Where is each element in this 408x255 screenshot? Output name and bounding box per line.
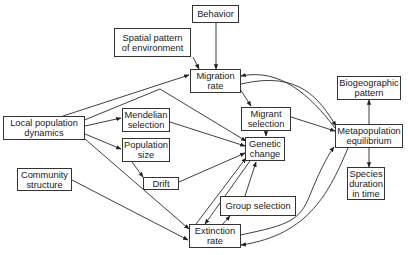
node-label: equilibrium [347,136,392,146]
node-extinction-rate: Extinction rate [189,224,241,248]
node-label: size [138,150,155,160]
node-label: selection [248,119,285,129]
node-label: Species [349,169,382,179]
node-label: of environment [122,43,184,53]
node-label: Migrant [250,109,281,119]
node-label: Local population [10,118,78,128]
edge-migration-migrantsel [240,89,251,106]
node-label: Migration [196,71,234,81]
node-label: Behavior [197,9,234,19]
node-label: in time [352,189,379,199]
node-label: change [250,149,281,159]
node-label: Extinction [195,226,235,236]
node-group-selection: Group selection [220,196,296,216]
node-label: structure [26,180,62,190]
node-label: selection [128,120,165,130]
node-genetic-change: Genetic change [245,137,285,161]
node-label: Mendelian [125,110,168,120]
node-label: Metapopulation [337,126,401,136]
node-drift: Drift [143,177,179,190]
node-population-size: Population size [122,138,170,162]
node-local-population-dynamics: Local population dynamics [3,116,85,140]
node-label: dynamics [24,128,63,138]
node-behavior: Behavior [192,5,239,23]
edge-groupsel-genetic [245,162,256,196]
node-label: Genetic [249,139,281,149]
node-label: Population [124,140,168,150]
node-label: rate [207,81,223,91]
node-label: pattern [355,88,384,98]
edge-local-popsize [85,134,121,149]
node-label: Community [21,170,68,180]
node-spatial-pattern: Spatial pattern of environment [114,28,191,57]
node-mendelian-selection: Mendelian selection [122,108,170,132]
node-migrant-selection: Migrant selection [241,107,291,131]
node-label: Group selection [225,201,290,211]
node-label: duration [349,179,383,189]
node-migration-rate: Migration rate [190,69,241,93]
node-label: Biogeographic [339,78,398,88]
node-label: rate [207,236,223,246]
edge-drift-genetic [179,153,245,182]
edge-local-mendelian [85,118,121,126]
node-species-duration: Species duration in time [347,167,385,200]
edge-spatial-migration [193,57,199,69]
node-label: Spatial pattern [123,33,183,43]
edge-popsize-drift [132,162,143,177]
node-metapopulation-equilibrium: Metapopulation equilibrium [335,124,403,148]
node-label: Drift [152,179,169,189]
node-community-structure: Community structure [17,168,72,191]
node-biogeographic-pattern: Biogeographic pattern [337,76,401,100]
